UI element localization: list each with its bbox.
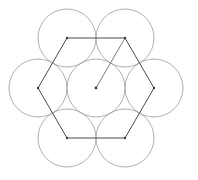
geometric-figure-svg — [0, 0, 198, 180]
figure-canvas — [0, 0, 198, 180]
hexagon-vertex-bottom-left-dot — [66, 137, 68, 139]
hexagon-vertex-top-right-dot — [124, 37, 126, 39]
hexagon-vertex-right-dot — [153, 87, 155, 89]
figure-background — [0, 0, 198, 180]
center-point-dot — [95, 87, 98, 90]
hexagon-vertex-top-left-dot — [66, 37, 68, 39]
hexagon-vertex-left-dot — [37, 87, 39, 89]
hexagon-vertex-bottom-right-dot — [124, 137, 126, 139]
